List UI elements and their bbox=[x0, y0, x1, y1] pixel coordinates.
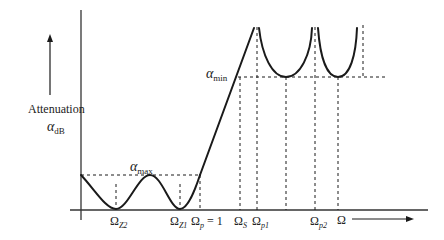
omega-p2-label: Ωp2 bbox=[310, 214, 327, 230]
omega-axis-label: Ω bbox=[337, 213, 346, 227]
omega-s-label: ΩS bbox=[234, 214, 247, 230]
omega-z2-label: ΩZ2 bbox=[110, 214, 127, 230]
transition-band-line bbox=[200, 28, 254, 175]
alpha-min-label: αmin bbox=[206, 66, 228, 83]
omega-p-label: Ωp = 1 bbox=[191, 214, 223, 230]
passband-ripple-curve bbox=[81, 175, 200, 209]
alpha-max-label: αmax bbox=[130, 159, 153, 176]
y-axis-label: Attenuation bbox=[28, 102, 85, 116]
attenuation-diagram: Attenuation αdB αmax αmin ΩZ2 ΩZ1 Ωp = 1… bbox=[0, 0, 444, 240]
omega-z1-label: ΩZ1 bbox=[170, 214, 187, 230]
omega-p1-label: Ωp1 bbox=[252, 214, 269, 230]
stopband-lobe-2 bbox=[318, 28, 357, 77]
stopband-lobe-1 bbox=[259, 28, 312, 77]
y-axis-symbol: αdB bbox=[47, 119, 65, 136]
